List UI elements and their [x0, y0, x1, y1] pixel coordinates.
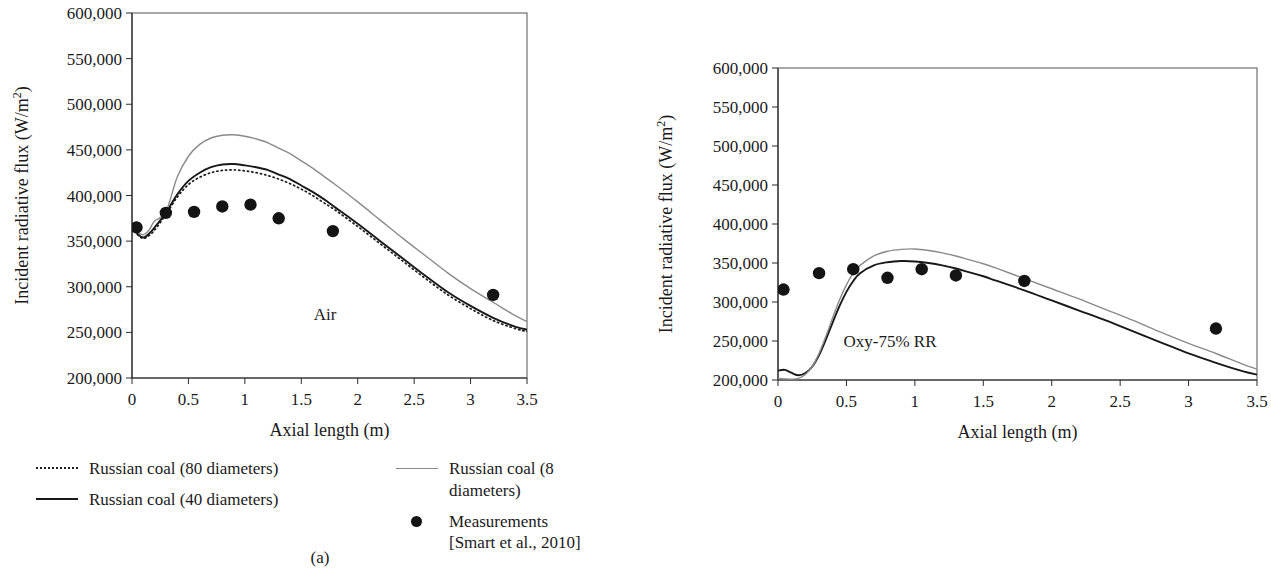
y-tick-label: 250,000: [67, 323, 122, 342]
solid-dark-line-icon: [34, 489, 80, 509]
y-tick-label: 200,000: [67, 369, 122, 388]
y-tick-label: 500,000: [67, 95, 122, 114]
y-tick-label: 250,000: [713, 332, 768, 351]
x-tick-label: 1: [911, 392, 920, 411]
chart-svg-a: 200,000250,000300,000350,000400,000450,0…: [0, 0, 640, 450]
x-axis-title: Axial length (m): [270, 420, 390, 441]
chart-panel-b: 200,000250,000300,000350,000400,000450,0…: [640, 0, 1271, 581]
y-tick-label: 600,000: [67, 4, 122, 23]
x-tick-label: 0: [128, 390, 137, 409]
filled-circle-icon: [394, 511, 440, 531]
y-tick-label: 350,000: [67, 232, 122, 251]
dotted-line-icon: [34, 458, 80, 478]
measurement-point: [950, 269, 962, 281]
y-axis-title-tail: ): [656, 115, 677, 121]
measurement-point: [1210, 322, 1222, 334]
x-tick-label: 0.5: [836, 392, 857, 411]
series-group: [130, 135, 527, 332]
x-tick-label: 2: [1047, 392, 1056, 411]
measurement-point: [916, 263, 928, 275]
x-axis-title: Axial length (m): [958, 422, 1078, 443]
measurement-point: [273, 212, 285, 224]
measurement-point: [881, 272, 893, 284]
y-tick-label: 450,000: [713, 176, 768, 195]
measurement-point: [847, 263, 859, 275]
y-axis-title-tail: ): [12, 86, 33, 92]
y-tick-label: 500,000: [713, 137, 768, 156]
measurement-point: [487, 289, 499, 301]
x-tick-label: 0: [774, 392, 783, 411]
panel-a-caption: (a): [0, 548, 640, 568]
series-group: [777, 249, 1257, 379]
legend-item[interactable]: Russian coal (8 diameters): [394, 458, 624, 502]
x-tick-label: 2.5: [1110, 392, 1131, 411]
legend-item-label: Russian coal (8 diameters): [449, 458, 624, 502]
chart-annotation: Air: [314, 305, 337, 324]
x-tick-label: 2: [353, 390, 362, 409]
legend-column-right-a: Russian coal (8 diameters) Measurements …: [394, 458, 624, 554]
y-tick-label: 200,000: [713, 371, 768, 390]
x-tick-label: 3.5: [1246, 392, 1267, 411]
y-tick-label: 300,000: [713, 293, 768, 312]
y-tick-label: 400,000: [713, 215, 768, 234]
x-tick-label: 1.5: [973, 392, 994, 411]
y-tick-label: 600,000: [713, 59, 768, 78]
measurement-point: [130, 221, 142, 233]
measurement-point: [160, 207, 172, 219]
x-tick-label: 1: [241, 390, 250, 409]
chart-svg-b: 200,000250,000300,000350,000400,000450,0…: [640, 0, 1271, 450]
x-tick-label: 3: [1184, 392, 1193, 411]
measurement-point: [188, 206, 200, 218]
measurement-point: [216, 200, 228, 212]
x-tick-label: 3.5: [516, 390, 537, 409]
y-tick-label: 450,000: [67, 141, 122, 160]
measurement-point: [244, 198, 256, 210]
y-tick-label: 350,000: [713, 254, 768, 273]
y-axis-title-main: Incident radiative flux (W/m: [12, 98, 33, 304]
solid-gray-line-icon: [394, 458, 440, 478]
y-tick-label: 550,000: [67, 50, 122, 69]
legend-item[interactable]: Russian coal (80 diameters): [34, 458, 394, 480]
x-tick-label: 1.5: [291, 390, 312, 409]
y-axis-title: Incident radiative flux (W/m2): [654, 115, 677, 333]
y-axis-title-main: Incident radiative flux (W/m: [656, 127, 677, 333]
y-axis-title: Incident radiative flux (W/m2): [10, 86, 33, 304]
measurement-point: [327, 225, 339, 237]
legend-panel-a: Russian coal (80 diameters) Russian coal…: [34, 458, 624, 554]
legend-item-label: Russian coal (80 diameters): [89, 458, 278, 480]
measurement-point: [813, 267, 825, 279]
y-tick-label: 300,000: [67, 278, 122, 297]
chart-annotation: Oxy-75% RR: [843, 332, 937, 351]
x-tick-label: 3: [466, 390, 475, 409]
measurement-point: [1018, 275, 1030, 287]
measurement-point: [777, 283, 789, 295]
legend-item[interactable]: Russian coal (40 diameters): [34, 489, 394, 511]
y-tick-label: 400,000: [67, 187, 122, 206]
chart-panel-a: 200,000250,000300,000350,000400,000450,0…: [0, 0, 640, 581]
legend-item-label: Russian coal (40 diameters): [89, 489, 278, 511]
y-tick-label: 550,000: [713, 98, 768, 117]
figure-container: 200,000250,000300,000350,000400,000450,0…: [0, 0, 1271, 581]
x-tick-label: 0.5: [178, 390, 199, 409]
x-tick-label: 2.5: [404, 390, 425, 409]
legend-column-left-a: Russian coal (80 diameters) Russian coal…: [34, 458, 394, 554]
